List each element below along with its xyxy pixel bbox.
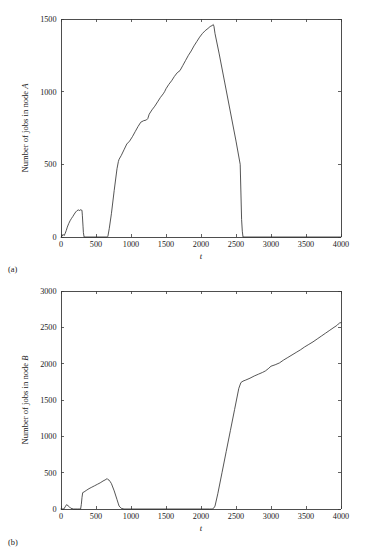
y-tick-label: 2000 <box>40 360 56 369</box>
y-tick-label: 500 <box>44 160 56 169</box>
chart-a-axes <box>61 19 341 237</box>
chart-a-data-line <box>61 25 341 237</box>
x-tick-label: 4000 <box>333 512 349 521</box>
chart-b-svg: 05001000150020002500300035004000 0500100… <box>0 280 371 556</box>
x-tick-label: 4000 <box>333 240 349 249</box>
figure-container: 05001000150020002500300035004000 0500100… <box>0 0 371 556</box>
x-tick-label: 2500 <box>228 512 244 521</box>
y-tick-label: 3000 <box>40 287 56 296</box>
chart-a-y-axis-title: Number of jobs in node A <box>20 83 30 173</box>
chart-a-ticks <box>61 19 341 237</box>
y-tick-label: 1500 <box>40 15 56 24</box>
y-tick-label: 500 <box>44 469 56 478</box>
y-axis-title-text: Number of jobs in node <box>20 89 30 173</box>
y-tick-label: 1000 <box>40 88 56 97</box>
x-tick-label: 2500 <box>228 240 244 249</box>
x-tick-label: 3500 <box>298 512 314 521</box>
y-tick-label: 1500 <box>40 396 56 405</box>
chart-a-x-tick-labels: 05001000150020002500300035004000 <box>59 240 349 249</box>
y-tick-label: 1000 <box>40 432 56 441</box>
x-tick-label: 1500 <box>158 512 174 521</box>
chart-b-ticks <box>61 291 341 509</box>
chart-b-data-line <box>61 323 341 509</box>
x-tick-label: 500 <box>90 512 102 521</box>
y-axis-title-symbol: A <box>20 83 30 90</box>
y-tick-label: 2500 <box>40 323 56 332</box>
y-axis-title-text: Number of jobs in node <box>20 361 30 445</box>
x-tick-label: 3000 <box>263 240 279 249</box>
x-tick-label: 500 <box>90 240 102 249</box>
chart-a-x-axis-title: t <box>200 251 203 261</box>
chart-b-x-axis-title: t <box>200 523 203 533</box>
chart-panel-a: 05001000150020002500300035004000 0500100… <box>0 0 371 280</box>
x-tick-label: 2000 <box>193 240 209 249</box>
chart-b-y-axis-title: Number of jobs in node B <box>20 355 30 445</box>
chart-a-svg: 05001000150020002500300035004000 0500100… <box>0 0 371 280</box>
chart-panel-b: 05001000150020002500300035004000 0500100… <box>0 280 371 556</box>
panel-label-a: (a) <box>8 265 18 274</box>
x-tick-label: 1000 <box>123 512 139 521</box>
x-tick-label: 1500 <box>158 240 174 249</box>
y-axis-title-symbol: B <box>20 355 30 361</box>
x-tick-label: 2000 <box>193 512 209 521</box>
y-tick-label: 0 <box>52 505 56 514</box>
x-tick-label: 3500 <box>298 240 314 249</box>
chart-b-x-tick-labels: 05001000150020002500300035004000 <box>59 512 349 521</box>
chart-b-axes <box>61 291 341 509</box>
panel-label-b: (b) <box>8 538 18 547</box>
chart-b-y-tick-labels: 050010001500200025003000 <box>40 287 56 514</box>
x-tick-label: 1000 <box>123 240 139 249</box>
y-tick-label: 0 <box>52 233 56 242</box>
chart-a-y-tick-labels: 050010001500 <box>40 15 56 242</box>
x-tick-label: 0 <box>59 240 63 249</box>
x-tick-label: 3000 <box>263 512 279 521</box>
x-tick-label: 0 <box>59 512 63 521</box>
